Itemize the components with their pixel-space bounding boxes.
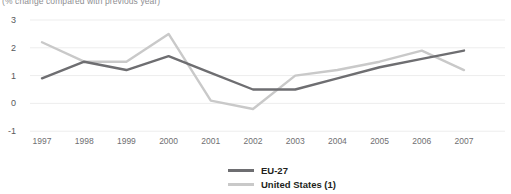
x-axis-tick-label: 2003 xyxy=(286,136,305,146)
x-axis-tick-label: 2000 xyxy=(159,136,178,146)
legend-item[interactable]: United States (1) xyxy=(0,177,511,191)
line-chart: (% change compared with previous year) 3… xyxy=(0,0,511,194)
chart-subtitle: (% change compared with previous year) xyxy=(2,0,160,6)
legend-item[interactable]: EU-27 xyxy=(0,163,511,177)
x-axis-tick-label: 1997 xyxy=(33,136,52,146)
x-axis-tick-label: 2002 xyxy=(244,136,263,146)
legend-label: EU-27 xyxy=(261,165,288,176)
legend-swatch xyxy=(228,169,254,172)
legend-swatch xyxy=(228,183,254,186)
legend-label: United States (1) xyxy=(261,179,336,190)
x-axis-tick-label: 2005 xyxy=(370,136,389,146)
series-line xyxy=(42,34,464,109)
x-axis-labels: 1997199819992000200120022003200420052006… xyxy=(0,136,511,152)
x-axis-tick-label: 2001 xyxy=(201,136,220,146)
x-axis-tick-label: 1998 xyxy=(75,136,94,146)
x-axis-tick-label: 1999 xyxy=(117,136,136,146)
plot-svg xyxy=(0,14,511,134)
chart-legend: EU-27United States (1) xyxy=(0,163,511,191)
x-axis-tick-label: 2007 xyxy=(455,136,474,146)
x-axis-tick-label: 2006 xyxy=(412,136,431,146)
plot-area xyxy=(0,14,511,134)
x-axis-tick-label: 2004 xyxy=(328,136,347,146)
